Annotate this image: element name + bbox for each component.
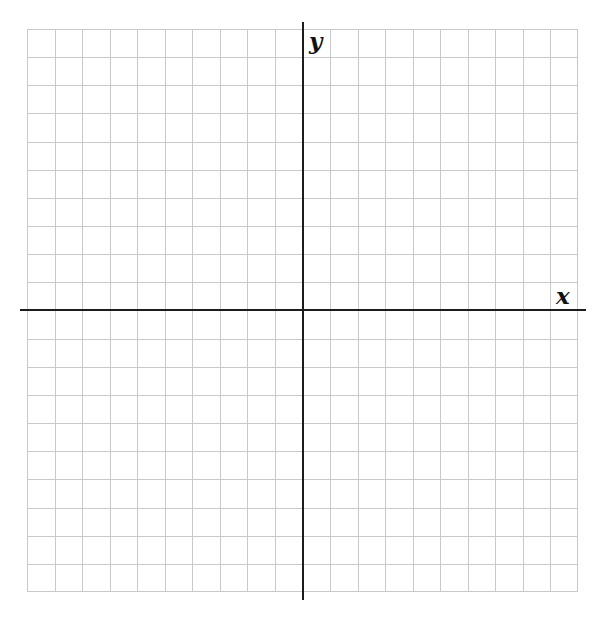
x-axis-label: x xyxy=(556,284,570,307)
y-axis-label: y xyxy=(309,29,322,52)
coordinate-grid-canvas: y x xyxy=(0,0,603,625)
x-axis-line xyxy=(20,309,586,311)
